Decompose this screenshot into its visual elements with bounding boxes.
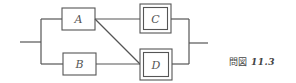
block-b: B (63, 53, 96, 75)
block-b-label: B (74, 58, 83, 71)
block-c: C (140, 4, 171, 33)
caption-prefix: 問図 (229, 57, 247, 67)
block-d-label: D (151, 59, 161, 72)
wire-a-to-d (95, 19, 141, 65)
block-c-label: C (151, 13, 160, 26)
block-a-label: A (74, 13, 83, 26)
block-a: A (62, 8, 95, 30)
figure-caption: 問図11.3 (229, 55, 275, 68)
block-d: D (140, 49, 172, 80)
caption-number: 11.3 (251, 57, 275, 67)
reliability-diagram: A B C D (0, 0, 296, 83)
